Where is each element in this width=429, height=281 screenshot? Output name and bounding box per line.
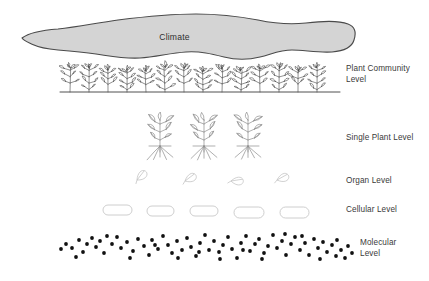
molecule-dot xyxy=(180,248,184,252)
molecule-dot xyxy=(293,235,297,239)
molecule-dot xyxy=(350,251,354,255)
molecule-dot xyxy=(98,239,102,243)
molecule-dot xyxy=(221,243,225,247)
molecule-dot xyxy=(161,234,165,238)
molecule-dot xyxy=(284,253,288,257)
molecule-dot xyxy=(147,253,151,257)
molecule-dot xyxy=(142,244,146,248)
molecule-dot xyxy=(212,239,216,243)
molecule-dot xyxy=(244,234,248,238)
molecule-dot xyxy=(321,240,325,244)
molecule-dot xyxy=(176,256,180,260)
molecule-dot xyxy=(90,236,94,240)
molecule-dot xyxy=(318,257,322,261)
molecule-dot xyxy=(198,241,202,245)
molecule-dot xyxy=(283,232,287,236)
label-cellular-level: Cellular Level xyxy=(346,205,397,216)
molecule-dot xyxy=(203,233,207,237)
molecule-dot xyxy=(275,246,279,250)
label-plant-community-level: Plant Community Level xyxy=(346,64,410,85)
molecule-dot xyxy=(77,238,81,242)
molecule-dot xyxy=(230,247,234,251)
molecule-dot xyxy=(346,244,350,248)
molecule-dot xyxy=(85,242,89,246)
molecule-dot xyxy=(70,246,74,250)
molecule-dot xyxy=(185,236,189,240)
molecule-dot xyxy=(197,250,201,254)
molecule-dot xyxy=(330,243,334,247)
molecule-dot xyxy=(170,251,174,255)
molecule-dot xyxy=(298,248,302,252)
molecule-dot xyxy=(81,250,85,254)
molecule-dot xyxy=(189,245,193,249)
molecule-dot xyxy=(248,249,252,253)
molecule-dot xyxy=(235,256,239,260)
molecule-dot xyxy=(207,248,211,252)
molecule-dot xyxy=(156,247,160,251)
molecule-dot xyxy=(102,251,106,255)
molecule-dot xyxy=(128,256,132,260)
molecule-dot xyxy=(226,235,230,239)
molecule-dot xyxy=(260,257,264,261)
molecule-dot xyxy=(74,255,78,259)
molecule-dot xyxy=(59,247,63,251)
molecule-dot xyxy=(166,243,170,247)
molecule-dot xyxy=(125,240,129,244)
molecule-dot xyxy=(153,243,157,247)
molecule-dot xyxy=(175,239,179,243)
molecule-dot xyxy=(194,254,198,258)
molecule-dot xyxy=(218,257,222,261)
molecule-dot xyxy=(300,234,304,238)
molecule-dot xyxy=(253,242,257,246)
molecule-dot xyxy=(241,248,245,252)
molecule-dot xyxy=(266,244,270,248)
molecule-dot xyxy=(110,242,114,246)
molecule-dot xyxy=(312,237,316,241)
molecule-dot xyxy=(94,245,98,249)
molecule-dot xyxy=(262,251,266,255)
molecule-dot xyxy=(339,248,343,252)
molecule-dot xyxy=(217,250,221,254)
molecule-dot xyxy=(325,250,329,254)
molecule-dot xyxy=(239,241,243,245)
molecule-dot xyxy=(335,238,339,242)
molecule-dot xyxy=(316,246,320,250)
levels-diagram: Climate Plant Community Level Single Pla… xyxy=(0,0,429,281)
molecule-dot xyxy=(343,256,347,260)
molecule-dot xyxy=(271,233,275,237)
label-organ-level: Organ Level xyxy=(346,176,392,187)
molecule-dot xyxy=(334,254,338,258)
molecule-dot xyxy=(150,238,154,242)
molecule-dot xyxy=(136,237,140,241)
molecule-dot xyxy=(280,239,284,243)
molecule-dot xyxy=(131,249,135,253)
label-single-plant-level: Single Plant Level xyxy=(346,133,413,144)
molecule-dot xyxy=(105,234,109,238)
molecule-dot xyxy=(307,253,311,257)
molecule-dot xyxy=(257,237,261,241)
molecule-dot xyxy=(64,242,68,246)
molecule-dot xyxy=(303,241,307,245)
label-molecular-level: Molecular Level xyxy=(360,238,396,259)
molecule-dot xyxy=(119,246,123,250)
molecule-dot xyxy=(115,235,119,239)
molecule-dot xyxy=(289,242,293,246)
